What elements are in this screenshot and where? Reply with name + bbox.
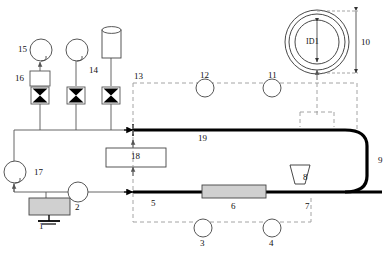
balloon-15 xyxy=(30,39,52,61)
diagram-canvas: 15 16 14 13 12 11 ID1 10 17 18 19 9 8 1 … xyxy=(0,0,391,256)
label-13: 13 xyxy=(134,72,143,81)
valve-2 xyxy=(67,87,85,104)
main-loop-pipes xyxy=(133,130,382,192)
label-4: 4 xyxy=(269,239,274,248)
label-9: 9 xyxy=(378,156,383,165)
label-18: 18 xyxy=(131,152,140,161)
label-id1: ID1 xyxy=(306,38,319,46)
label-17: 17 xyxy=(34,168,43,177)
label-12: 12 xyxy=(200,71,209,80)
label-15: 15 xyxy=(18,45,27,54)
label-7: 7 xyxy=(305,202,310,211)
valve-1 xyxy=(31,87,49,104)
reservoir-tank-1 xyxy=(29,198,70,224)
label-11: 11 xyxy=(268,71,277,80)
circle-3 xyxy=(194,219,212,237)
label-1: 1 xyxy=(39,222,44,231)
label-3: 3 xyxy=(200,239,205,248)
circle-12 xyxy=(196,79,214,97)
label-2: 2 xyxy=(75,203,80,212)
schematic-svg xyxy=(0,0,391,256)
label-14: 14 xyxy=(89,66,98,75)
valve-group xyxy=(31,87,120,104)
label-6: 6 xyxy=(231,202,236,211)
gas-cylinder-14 xyxy=(102,27,121,58)
label-10: 10 xyxy=(361,38,370,47)
circle-4 xyxy=(263,219,281,237)
circle-11 xyxy=(263,79,281,97)
balloon-unlabeled xyxy=(66,39,88,61)
test-section-6 xyxy=(202,185,266,198)
gauge-17 xyxy=(4,161,26,183)
label-16: 16 xyxy=(15,74,24,83)
label-8: 8 xyxy=(303,173,308,182)
label-19: 19 xyxy=(198,134,207,143)
filter-box-16 xyxy=(30,71,50,86)
pump-2 xyxy=(68,182,88,202)
valve-3 xyxy=(102,87,120,104)
label-5: 5 xyxy=(151,199,156,208)
